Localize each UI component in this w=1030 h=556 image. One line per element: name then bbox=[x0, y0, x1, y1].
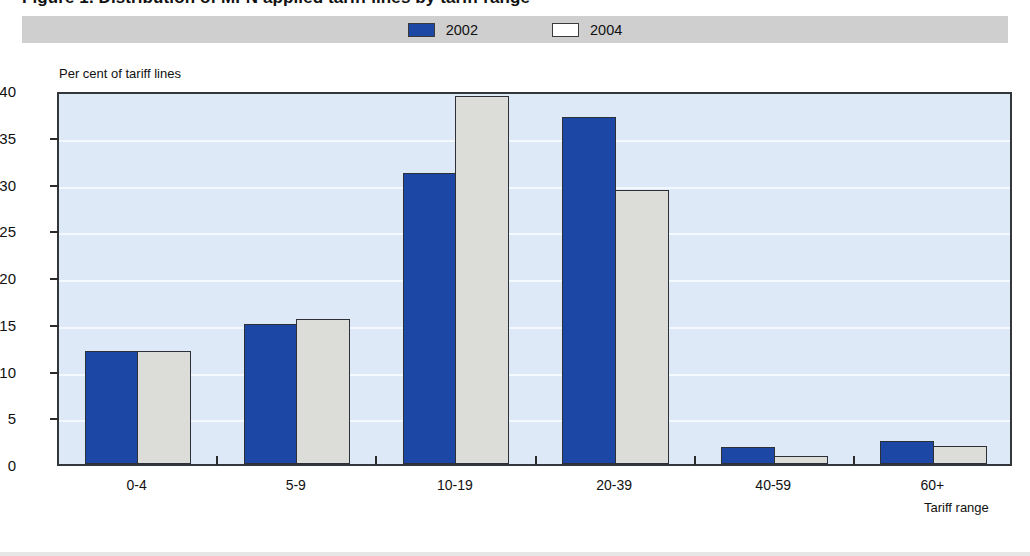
outlined-square-icon bbox=[552, 23, 579, 37]
page-bottom-edge bbox=[0, 552, 1030, 556]
bar-2004-5-9 bbox=[296, 319, 350, 464]
y-axis-tick bbox=[50, 138, 59, 140]
plot-wrapper bbox=[57, 92, 1012, 466]
chart-title-strip: Figure 1. Distribution of MFN applied ta… bbox=[0, 0, 1030, 11]
bar-group bbox=[85, 94, 193, 464]
chart-legend: 2002 2004 bbox=[22, 16, 1008, 43]
y-axis-tick-label: 5 bbox=[0, 410, 16, 427]
bar-2004-20-39 bbox=[615, 190, 669, 464]
y-axis-tick-label: 15 bbox=[0, 317, 16, 334]
y-axis-tick-label: 35 bbox=[0, 130, 16, 147]
y-axis-tick bbox=[50, 231, 59, 233]
x-axis-tick bbox=[535, 456, 537, 465]
bar-2002-0-4 bbox=[85, 351, 139, 464]
x-axis-tick bbox=[216, 456, 218, 465]
bar-2002-10-19 bbox=[403, 173, 457, 464]
x-axis-tick-label: 20-39 bbox=[596, 477, 632, 493]
bar-group bbox=[721, 94, 829, 464]
y-axis-tick-label: 0 bbox=[0, 457, 16, 474]
x-axis-tick bbox=[853, 456, 855, 465]
x-axis-tick-label: 60+ bbox=[921, 477, 945, 493]
legend-item-2004: 2004 bbox=[552, 22, 622, 38]
bar-2004-0-4 bbox=[137, 351, 191, 464]
legend-label-2002: 2002 bbox=[446, 22, 478, 38]
bar-group bbox=[562, 94, 670, 464]
bar-2002-60+ bbox=[880, 441, 934, 464]
y-axis-tick bbox=[50, 325, 59, 327]
y-axis-tick bbox=[50, 418, 59, 420]
y-axis-tick-label: 25 bbox=[0, 223, 16, 240]
y-axis-title: Per cent of tariff lines bbox=[59, 66, 181, 81]
y-axis-tick-label: 20 bbox=[0, 270, 16, 287]
bar-2002-20-39 bbox=[562, 117, 616, 464]
bar-2002-5-9 bbox=[244, 324, 298, 464]
x-axis-tick-label: 40-59 bbox=[755, 477, 791, 493]
y-axis-tick-label: 30 bbox=[0, 177, 16, 194]
y-axis-tick bbox=[50, 372, 59, 374]
x-axis-tick bbox=[694, 456, 696, 465]
x-axis-tick-label: 10-19 bbox=[437, 477, 473, 493]
y-axis-tick-label: 10 bbox=[0, 364, 16, 381]
bar-2004-40-59 bbox=[774, 456, 828, 464]
bars-layer bbox=[59, 94, 1010, 464]
x-axis-tick-label: 5-9 bbox=[286, 477, 306, 493]
x-axis-tick-label: 0-4 bbox=[126, 477, 146, 493]
bar-group bbox=[880, 94, 988, 464]
y-axis-tick bbox=[50, 278, 59, 280]
bar-group bbox=[244, 94, 352, 464]
bar-group bbox=[403, 94, 511, 464]
y-axis-tick-label: 40 bbox=[0, 83, 16, 100]
bar-2004-10-19 bbox=[455, 96, 509, 464]
filled-square-icon bbox=[408, 23, 435, 37]
y-axis-tick bbox=[50, 185, 59, 187]
legend-item-2002: 2002 bbox=[408, 22, 478, 38]
plot-area bbox=[57, 92, 1012, 466]
page-title: Figure 1. Distribution of MFN applied ta… bbox=[22, 0, 530, 8]
bar-2004-60+ bbox=[933, 446, 987, 464]
bar-2002-40-59 bbox=[721, 447, 775, 464]
x-axis-title: Tariff range bbox=[924, 500, 989, 515]
legend-label-2004: 2004 bbox=[590, 22, 622, 38]
x-axis-tick bbox=[375, 456, 377, 465]
